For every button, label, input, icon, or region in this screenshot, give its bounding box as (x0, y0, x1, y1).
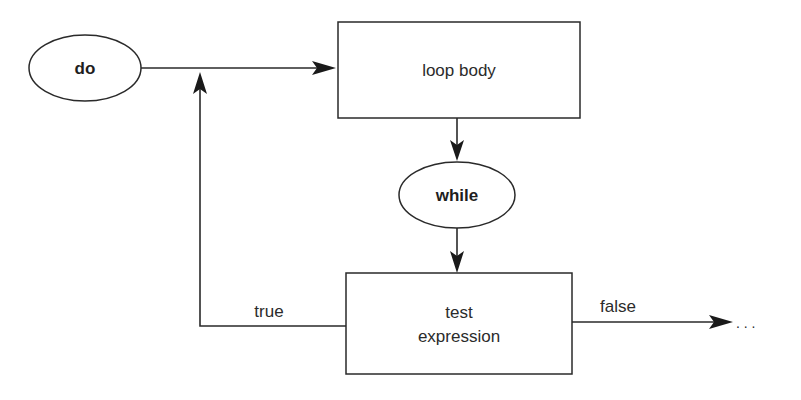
false-label: false (600, 297, 636, 316)
while-label: while (435, 186, 479, 205)
test-label-line2: expression (418, 327, 500, 346)
loop-body-label: loop body (422, 61, 496, 80)
edge-while-to-test (450, 228, 464, 273)
edge-true-loop-back: true (193, 72, 346, 326)
node-loop-body: loop body (338, 22, 580, 118)
do-label: do (75, 59, 96, 78)
node-while: while (399, 162, 515, 228)
node-do: do (29, 35, 141, 101)
test-expression-box (346, 273, 572, 374)
edge-body-to-while (450, 118, 464, 161)
do-while-flowchart: do loop body while test expression true (0, 0, 801, 400)
true-label: true (254, 302, 283, 321)
edge-false-exit: false . . . (572, 297, 755, 331)
node-test-expression: test expression (346, 273, 572, 374)
test-label-line1: test (445, 303, 473, 322)
edge-do-to-body (141, 61, 336, 75)
continuation-ellipsis: . . . (736, 315, 755, 331)
